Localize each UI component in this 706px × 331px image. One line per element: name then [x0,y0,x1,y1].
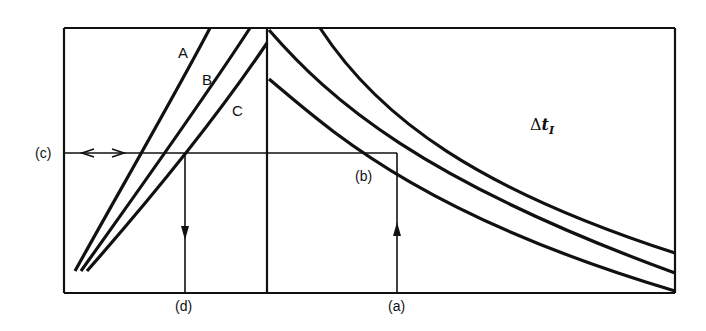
curve-label-c: C [232,103,243,118]
arrow-down-icon [181,226,189,240]
delta-t-label: ΔtI [530,115,554,137]
marker-a: (a) [388,299,405,313]
curve-b-left [81,28,250,271]
arrow-up-icon [393,222,401,236]
delta-subscript: I [549,124,554,137]
marker-d: (d) [175,299,192,313]
curve-label-a: A [178,45,188,60]
delta-variable: t [542,115,549,134]
curve-b-right [269,30,675,273]
curve-a-right [320,28,675,253]
delta-symbol: Δ [530,115,542,134]
marker-c: (c) [35,146,51,160]
curve-label-b: B [202,72,212,87]
marker-b: (b) [355,169,372,183]
nomograph-diagram [0,0,706,331]
